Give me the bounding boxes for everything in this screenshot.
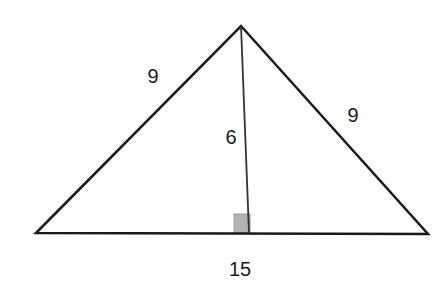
base-label: 15 (229, 258, 251, 280)
altitude-label: 6 (225, 126, 236, 148)
triangle-diagram: 9 9 6 15 (0, 0, 448, 284)
right-side-label: 9 (347, 104, 358, 126)
left-side-label: 9 (147, 65, 158, 87)
altitude-line (241, 26, 249, 233)
